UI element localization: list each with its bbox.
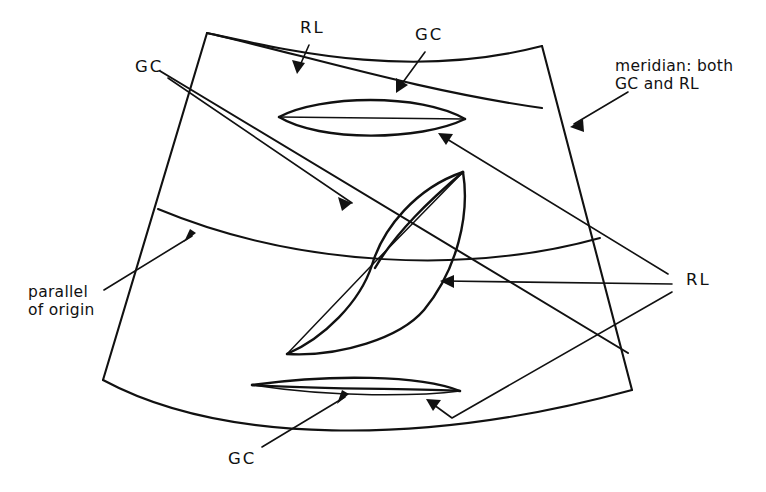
lens-middle-group — [287, 172, 465, 354]
parallel-of-origin-curve — [158, 209, 600, 260]
arrow-head — [184, 229, 196, 242]
leader-gc-bottom — [262, 390, 349, 447]
leader-line — [442, 136, 668, 274]
label-rl-right: RL — [686, 270, 711, 289]
leader-line — [262, 397, 345, 447]
arrow-head — [292, 60, 305, 74]
lens-top — [279, 100, 465, 136]
label-parallel-of-origin: parallel of origin — [28, 283, 95, 320]
lens-top-gc-upper-arc — [279, 100, 465, 119]
label-meridian-note: meridian: both GC and RL — [615, 57, 733, 94]
lens-bottom — [252, 378, 460, 395]
arrow-head — [438, 133, 453, 145]
left-meridian — [103, 33, 207, 380]
leader-rl-to-top-lens — [438, 133, 668, 274]
leader-line — [444, 281, 672, 284]
leader-line — [430, 292, 672, 418]
graticule-frame — [103, 33, 632, 431]
leader-rl-to-middle-lens — [440, 275, 672, 288]
leader-parallel-of-origin — [104, 229, 196, 290]
lens-bottom-rl-chord — [252, 385, 460, 391]
leader-rl-top — [292, 45, 309, 74]
leader-line — [574, 92, 628, 124]
top-parallel-arc-true — [207, 33, 542, 62]
figure-canvas: GC RL GC meridian: both GC and RL RL par… — [0, 0, 766, 492]
leader-line — [104, 236, 192, 290]
arrow-head — [570, 119, 584, 132]
arrow-head — [337, 390, 349, 404]
leader-rl-to-bottom-lens — [426, 292, 672, 418]
label-gc-bottom: GC — [228, 449, 256, 468]
lens-top-gc-lower-arc — [279, 117, 465, 136]
arrow-head — [440, 275, 454, 288]
label-rl-top: RL — [300, 18, 325, 37]
label-gc-top-right: GC — [415, 25, 443, 44]
label-gc-top-left: GC — [135, 57, 163, 76]
leader-meridian-note — [570, 92, 628, 132]
leader-gc-top-right — [396, 52, 425, 93]
meridian-diagonal-line — [160, 71, 628, 353]
lens-middle-lower-rl-chord — [287, 265, 372, 354]
lens-top-rl-chord — [279, 117, 465, 119]
leader-gc-top-left — [168, 78, 352, 211]
leader-line — [168, 78, 352, 203]
